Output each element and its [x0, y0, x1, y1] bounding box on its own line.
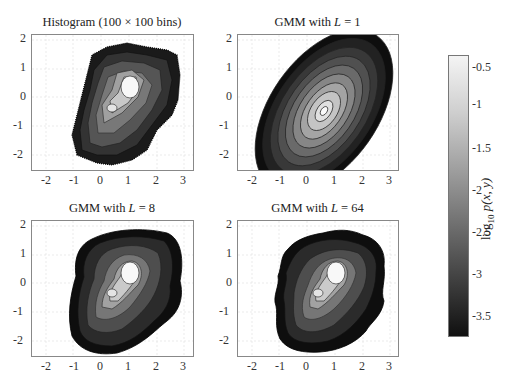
colorbar-tick: -3.5: [472, 309, 491, 324]
panel-title: GMM with L = 8: [31, 201, 193, 216]
x-tick: 0: [303, 173, 309, 188]
x-tick: -2: [41, 359, 51, 374]
y-tick: -1: [13, 304, 23, 319]
y-tick: 1: [20, 246, 26, 261]
gmm-l8-contours: [32, 221, 193, 356]
x-tick: -1: [275, 173, 285, 188]
x-tick: 2: [359, 173, 365, 188]
x-tick: 0: [97, 359, 103, 374]
y-tick: 2: [20, 31, 26, 46]
x-tick: -1: [69, 359, 79, 374]
y-tick: 1: [226, 246, 232, 261]
panel-title: GMM with L = 1: [237, 15, 398, 30]
x-tick: 2: [153, 173, 159, 188]
colorbar-tick: -1: [472, 97, 482, 112]
y-tick: 1: [20, 60, 26, 75]
y-tick: -1: [13, 118, 23, 133]
histogram-contours: [32, 35, 193, 170]
x-tick: -2: [41, 173, 51, 188]
x-tick: 3: [180, 173, 186, 188]
gmm-l1-contours: [238, 35, 398, 170]
y-tick: -2: [219, 147, 229, 162]
x-tick: 1: [331, 173, 337, 188]
y-tick: -2: [219, 333, 229, 348]
colorbar: [448, 55, 469, 337]
x-tick: 2: [153, 359, 159, 374]
x-tick: 0: [303, 359, 309, 374]
x-tick: 1: [331, 359, 337, 374]
x-tick: 1: [125, 173, 131, 188]
plot-area: [237, 220, 399, 357]
x-tick: -1: [69, 173, 79, 188]
y-tick: 2: [20, 217, 26, 232]
colorbar-tick: -3: [472, 267, 482, 282]
y-tick: 1: [226, 60, 232, 75]
y-tick: -1: [219, 118, 229, 133]
panel-title: Histogram (100 × 100 bins): [31, 15, 193, 30]
x-tick: 0: [97, 173, 103, 188]
x-tick: 3: [386, 359, 392, 374]
x-tick: 3: [180, 359, 186, 374]
y-tick: -1: [219, 304, 229, 319]
x-tick: -2: [247, 173, 257, 188]
y-tick: 2: [226, 31, 232, 46]
y-tick: 0: [20, 89, 26, 104]
colorbar-tick: -1.5: [472, 141, 491, 156]
panel-title: GMM with L = 64: [237, 201, 398, 216]
colorbar-tick: -0.5: [472, 60, 491, 75]
plot-area: [237, 34, 399, 171]
gmm-l64-contours: [238, 221, 398, 356]
plot-area: [31, 220, 194, 357]
y-tick: -2: [13, 147, 23, 162]
x-tick: 1: [125, 359, 131, 374]
x-tick: 3: [386, 173, 392, 188]
y-tick: 2: [226, 217, 232, 232]
y-tick: 0: [226, 89, 232, 104]
colorbar-label: log10 p(x, y): [478, 178, 496, 240]
y-tick: 0: [226, 275, 232, 290]
x-tick: -2: [247, 359, 257, 374]
plot-area: [31, 34, 194, 171]
x-tick: 2: [359, 359, 365, 374]
y-tick: -2: [13, 333, 23, 348]
y-tick: 0: [20, 275, 26, 290]
x-tick: -1: [275, 359, 285, 374]
